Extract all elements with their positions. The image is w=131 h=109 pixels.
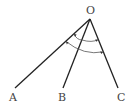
arc-angle-AOC — [66, 41, 104, 52]
ray-OB — [63, 19, 90, 88]
point-label-B: B — [58, 91, 66, 104]
vertex-label-O: O — [86, 4, 95, 17]
point-label-A: A — [8, 91, 18, 104]
angle-diagram: O A B C — [0, 0, 131, 109]
ray-OA — [15, 19, 90, 88]
point-label-C: C — [117, 91, 125, 104]
ray-OC — [90, 19, 118, 88]
